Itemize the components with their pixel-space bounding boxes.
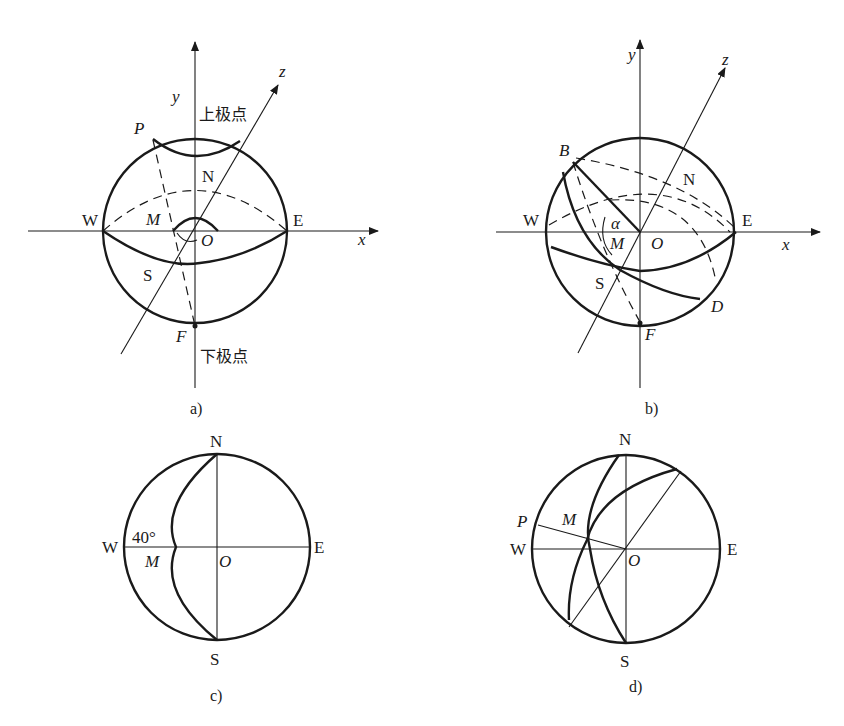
z-axis <box>578 68 725 353</box>
label-p: P <box>133 119 144 138</box>
stereographic-projection-diagram: y z x 上极点 下极点 P N W E M O S F a) y z <box>0 0 844 726</box>
point-f <box>193 324 198 329</box>
label-o: O <box>651 234 663 253</box>
label-z: z <box>278 62 286 81</box>
label-x: x <box>357 230 366 249</box>
label-w: W <box>510 540 527 559</box>
equator-front <box>551 232 736 271</box>
label-angle: 40° <box>132 528 156 547</box>
label-e: E <box>742 211 752 230</box>
great-circle-diagonal <box>569 469 677 620</box>
label-e: E <box>727 540 737 559</box>
upper-small-circle <box>153 139 240 156</box>
label-o: O <box>201 231 213 250</box>
caption-d: d) <box>629 678 642 696</box>
label-e: E <box>314 538 324 557</box>
label-f: F <box>175 327 187 346</box>
label-n: N <box>683 170 695 189</box>
label-z: z <box>721 50 729 69</box>
figure-b: y z x B N W E α M O S D F b) <box>496 40 820 418</box>
great-circle-bd <box>563 172 700 299</box>
label-m: M <box>561 510 577 529</box>
label-m: M <box>609 234 625 253</box>
caption-a: a) <box>190 400 202 418</box>
label-o: O <box>219 552 231 571</box>
label-y: y <box>170 87 180 106</box>
label-e: E <box>293 211 303 230</box>
label-s: S <box>210 650 219 669</box>
label-n: N <box>619 430 631 449</box>
label-n: N <box>210 432 222 451</box>
label-p: P <box>516 512 527 531</box>
dashed-b-arc <box>576 158 735 228</box>
figure-a: y z x 上极点 下极点 P N W E M O S F a) <box>28 42 378 418</box>
label-lower-pole: 下极点 <box>200 347 248 366</box>
label-d: D <box>710 297 724 316</box>
label-o: O <box>628 551 640 570</box>
label-alpha: α <box>611 214 621 233</box>
caption-b: b) <box>645 400 658 418</box>
label-upper-pole: 上极点 <box>199 105 247 124</box>
point-f <box>638 321 643 326</box>
label-n: N <box>202 167 214 186</box>
label-s: S <box>143 266 152 285</box>
label-w: W <box>523 211 540 230</box>
caption-c: c) <box>210 687 222 705</box>
line-bo <box>573 162 640 232</box>
label-x: x <box>781 235 790 254</box>
label-w: W <box>82 211 99 230</box>
label-f: F <box>644 325 656 344</box>
label-s: S <box>595 274 604 293</box>
label-m: M <box>145 210 161 229</box>
line-po <box>538 525 626 549</box>
label-s: S <box>620 652 629 671</box>
figure-d: N P M W E O S d) <box>510 430 737 696</box>
label-b: B <box>559 141 570 160</box>
label-y: y <box>626 45 636 64</box>
label-m: M <box>144 552 160 571</box>
label-w: W <box>102 538 119 557</box>
figure-c: N W E 40° M O S c) <box>102 432 324 705</box>
projection-line-pf <box>153 140 195 326</box>
